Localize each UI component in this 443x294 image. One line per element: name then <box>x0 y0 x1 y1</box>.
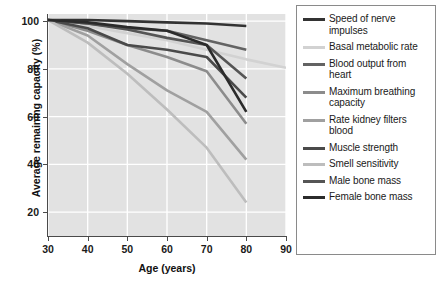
x-tick-label: 60 <box>154 243 180 255</box>
series-line <box>48 20 246 160</box>
legend-item-label: Maximum breathing capacity <box>329 86 430 109</box>
legend-swatch-icon <box>303 163 325 166</box>
legend-item-label: Male bone mass <box>329 175 401 187</box>
legend-swatch-icon <box>303 91 325 94</box>
legend-item[interactable]: Male bone mass <box>303 175 430 187</box>
x-tick <box>88 237 89 241</box>
y-axis-line <box>47 14 48 237</box>
legend-item[interactable]: Rate kidney filters blood <box>303 114 430 137</box>
legend-swatch-icon <box>303 180 325 183</box>
legend-swatch-icon <box>303 63 325 66</box>
legend-item[interactable]: Female bone mass <box>303 191 430 203</box>
y-tick <box>43 21 47 22</box>
x-tick-label: 40 <box>75 243 101 255</box>
legend-swatch-icon <box>303 18 325 21</box>
x-tick-label: 70 <box>194 243 220 255</box>
legend-item[interactable]: Speed of nerve impulses <box>303 13 430 36</box>
y-axis-title: Average remaining capacity (%) <box>30 18 42 218</box>
y-tick <box>43 117 47 118</box>
x-tick <box>246 237 247 241</box>
y-tick <box>43 212 47 213</box>
x-tick-label: 30 <box>35 243 61 255</box>
legend-item[interactable]: Blood output from heart <box>303 58 430 81</box>
legend-item[interactable]: Basal metabolic rate <box>303 41 430 53</box>
legend-item[interactable]: Maximum breathing capacity <box>303 86 430 109</box>
legend-item-label: Muscle strength <box>329 142 398 154</box>
legend-item-label: Basal metabolic rate <box>329 41 418 53</box>
x-tick-label: 50 <box>114 243 140 255</box>
plot-area <box>48 14 286 236</box>
legend-swatch-icon <box>303 147 325 150</box>
legend-swatch-icon <box>303 46 325 49</box>
legend-swatch-icon <box>303 119 325 122</box>
legend-swatch-icon <box>303 196 325 199</box>
x-tick <box>127 237 128 241</box>
y-tick <box>43 69 47 70</box>
legend-item-label: Speed of nerve impulses <box>329 13 430 36</box>
x-tick-label: 80 <box>233 243 259 255</box>
legend-item-label: Female bone mass <box>329 191 412 203</box>
chart-root: 3040506070809020406080100 Age (years) Av… <box>0 0 443 294</box>
legend-item[interactable]: Muscle strength <box>303 142 430 154</box>
x-axis-title: Age (years) <box>48 262 286 274</box>
legend-item-label: Smell sensitivity <box>329 158 398 170</box>
x-tick <box>286 237 287 241</box>
x-tick <box>167 237 168 241</box>
legend-item-label: Rate kidney filters blood <box>329 114 430 137</box>
legend-item-label: Blood output from heart <box>329 58 430 81</box>
chart-legend: Speed of nerve impulsesBasal metabolic r… <box>296 5 436 255</box>
x-tick <box>48 237 49 241</box>
plot-svg <box>48 14 286 236</box>
legend-item[interactable]: Smell sensitivity <box>303 158 430 170</box>
x-tick <box>207 237 208 241</box>
y-tick <box>43 164 47 165</box>
